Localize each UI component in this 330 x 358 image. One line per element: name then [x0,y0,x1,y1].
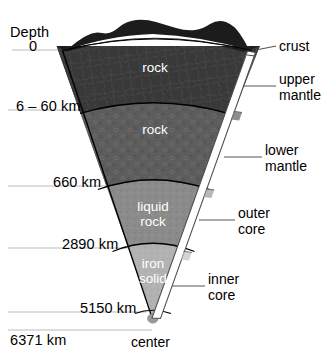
center-label: center [131,334,170,350]
depth-tick-label-0: 0 [29,38,37,54]
layer-label-outer-core-line2: rock [118,214,188,229]
depth-tick-label-moho: 6 – 60 km [16,98,81,114]
side-label-upper-mantle-line1: upper [279,71,315,87]
side-label-crust: crust [279,38,309,54]
side-label-lower-mantle-line2: mantle [265,158,307,174]
side-label-outer-core-line2: core [238,221,265,237]
depth-tick-label-5150: 5150 km [80,300,136,316]
layer-label-lower-mantle: rock [120,122,190,137]
side-label-outer-core-line1: outer [238,205,270,221]
layer-label-inner-core-line1: iron [121,256,185,271]
depth-tick-label-6371: 6371 km [10,332,66,348]
crust-topography [67,20,250,51]
depth-tick-label-660: 660 km [53,174,101,190]
diagram-canvas: Depth 0 6 – 60 km 660 km 2890 km 5150 km… [0,0,330,358]
layer-label-outer-core-line1: liquid [118,199,188,214]
layer-label-upper-mantle: rock [120,60,190,75]
side-label-inner-core-line1: inner [208,271,239,287]
side-label-lower-mantle-line1: lower [265,142,298,158]
layer-label-inner-core-line2: solid [121,271,185,286]
side-label-upper-mantle-line2: mantle [279,87,321,103]
side-label-inner-core-line2: core [208,287,235,303]
depth-tick-label-2890: 2890 km [62,236,118,252]
